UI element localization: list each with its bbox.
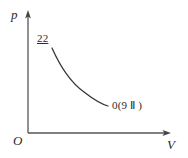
isotherm-curve <box>52 48 108 106</box>
curve-end-annotation: 0(9 Ⅱ ) <box>112 100 142 111</box>
diagram-canvas <box>0 0 188 158</box>
axes-group <box>25 10 171 136</box>
isotherm-curve-group <box>52 48 108 106</box>
pv-diagram-figure: p V O 22 0(9 Ⅱ ) <box>0 0 188 158</box>
x-axis-label: V <box>167 138 175 151</box>
curve-start-annotation: 22 <box>37 33 48 44</box>
y-axis-label: p <box>11 8 18 21</box>
origin-label: O <box>13 134 22 147</box>
